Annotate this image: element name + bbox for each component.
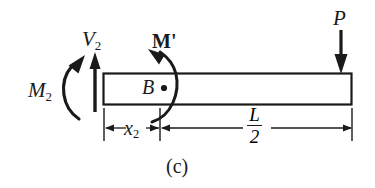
point-b-label: B bbox=[142, 76, 154, 99]
beam-body bbox=[104, 74, 352, 105]
point-b-dot bbox=[161, 85, 167, 91]
load-label: P bbox=[333, 6, 346, 31]
moment-arrow-m2 bbox=[64, 55, 85, 119]
internal-moment-label: M' bbox=[152, 30, 176, 53]
fraction-numerator: L bbox=[247, 105, 262, 124]
moment-left-label: M2 bbox=[28, 78, 52, 105]
dimension-label-half-l: L 2 bbox=[247, 105, 262, 146]
shear-force-arrow-v2 bbox=[90, 52, 101, 112]
dimension-label-x2: x2 bbox=[124, 117, 139, 142]
shear-force-label: V2 bbox=[82, 27, 101, 54]
fraction-denominator: 2 bbox=[247, 127, 262, 146]
figure-caption: (c) bbox=[166, 155, 188, 178]
load-arrow-p bbox=[335, 30, 348, 74]
